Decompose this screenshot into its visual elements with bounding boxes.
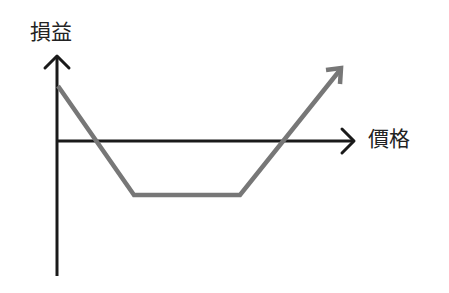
payoff-diagram	[0, 0, 449, 293]
y-axis	[45, 56, 69, 276]
payoff-line	[58, 68, 341, 195]
